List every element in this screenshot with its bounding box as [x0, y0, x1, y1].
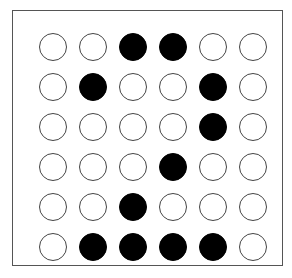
dot-grid [33, 27, 273, 267]
grid-cell [193, 67, 233, 107]
empty-circle-icon [39, 193, 67, 221]
filled-circle-icon [79, 233, 107, 261]
filled-circle-icon [159, 233, 187, 261]
empty-circle-icon [199, 153, 227, 181]
grid-cell [153, 187, 193, 227]
empty-circle-icon [79, 113, 107, 141]
grid-cell [113, 27, 153, 67]
grid-cell [193, 147, 233, 187]
filled-circle-icon [119, 33, 147, 61]
filled-circle-icon [159, 33, 187, 61]
empty-circle-icon [159, 73, 187, 101]
empty-circle-icon [239, 73, 267, 101]
grid-cell [233, 27, 273, 67]
empty-circle-icon [39, 113, 67, 141]
grid-cell [233, 67, 273, 107]
grid-cell [73, 227, 113, 267]
filled-circle-icon [199, 113, 227, 141]
empty-circle-icon [239, 233, 267, 261]
grid-cell [113, 147, 153, 187]
grid-cell [193, 187, 233, 227]
filled-circle-icon [199, 73, 227, 101]
empty-circle-icon [239, 153, 267, 181]
grid-cell [193, 27, 233, 67]
filled-circle-icon [199, 233, 227, 261]
empty-circle-icon [239, 193, 267, 221]
grid-cell [73, 67, 113, 107]
grid-cell [73, 27, 113, 67]
empty-circle-icon [159, 113, 187, 141]
empty-circle-icon [119, 73, 147, 101]
empty-circle-icon [239, 113, 267, 141]
empty-circle-icon [199, 33, 227, 61]
empty-circle-icon [39, 73, 67, 101]
filled-circle-icon [119, 233, 147, 261]
grid-cell [193, 107, 233, 147]
filled-circle-icon [159, 153, 187, 181]
empty-circle-icon [79, 33, 107, 61]
grid-cell [73, 147, 113, 187]
grid-cell [33, 27, 73, 67]
empty-circle-icon [39, 33, 67, 61]
grid-cell [153, 107, 193, 147]
empty-circle-icon [79, 193, 107, 221]
empty-circle-icon [119, 113, 147, 141]
grid-cell [113, 67, 153, 107]
empty-circle-icon [39, 233, 67, 261]
empty-circle-icon [119, 153, 147, 181]
empty-circle-icon [239, 33, 267, 61]
grid-cell [233, 227, 273, 267]
dot-grid-frame [12, 10, 283, 266]
grid-cell [233, 147, 273, 187]
grid-cell [33, 107, 73, 147]
filled-circle-icon [79, 73, 107, 101]
empty-circle-icon [159, 193, 187, 221]
grid-cell [33, 227, 73, 267]
grid-cell [113, 187, 153, 227]
grid-cell [113, 107, 153, 147]
grid-cell [113, 227, 153, 267]
empty-circle-icon [79, 153, 107, 181]
grid-cell [153, 27, 193, 67]
grid-cell [193, 227, 233, 267]
grid-cell [33, 187, 73, 227]
filled-circle-icon [119, 193, 147, 221]
grid-cell [33, 67, 73, 107]
grid-cell [73, 187, 113, 227]
grid-cell [73, 107, 113, 147]
grid-cell [153, 67, 193, 107]
empty-circle-icon [39, 153, 67, 181]
grid-cell [153, 227, 193, 267]
grid-cell [33, 147, 73, 187]
grid-cell [153, 147, 193, 187]
empty-circle-icon [199, 193, 227, 221]
grid-cell [233, 107, 273, 147]
grid-cell [233, 187, 273, 227]
